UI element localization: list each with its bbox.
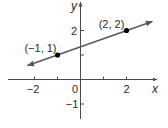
y-tick-label--1: −1 xyxy=(66,98,79,110)
origin-label: 0 xyxy=(72,83,78,95)
point-label-2-2: (2, 2) xyxy=(99,18,125,30)
coordinate-plane-chart: −2 0 2 2 −1 x y (−1, 1) (2, 2) xyxy=(0,0,168,128)
x-axis-label: x xyxy=(151,82,159,96)
y-axis-label: y xyxy=(70,0,78,13)
x-tick-label--2: −2 xyxy=(27,83,40,95)
point-2-2 xyxy=(124,28,129,33)
point-label-neg1-1: (−1, 1) xyxy=(24,42,56,54)
y-tick-label-2: 2 xyxy=(71,25,77,37)
x-tick-label-2: 2 xyxy=(123,83,129,95)
y-ticks xyxy=(81,31,85,105)
